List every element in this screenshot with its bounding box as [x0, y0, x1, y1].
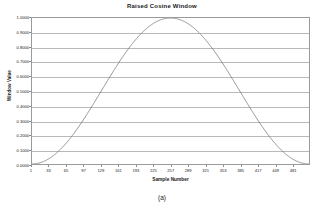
- x-tick-mark: [48, 165, 49, 167]
- y-tick-label: 0.7000: [0, 59, 29, 64]
- y-tick-label: 1.0000: [0, 15, 29, 20]
- x-tick-mark: [293, 165, 294, 167]
- x-tick-mark: [66, 165, 67, 167]
- y-tick-label: 0.1000: [0, 148, 29, 153]
- x-tick-mark: [258, 165, 259, 167]
- chart-raised-cosine-window: Raised Cosine Window Window Value 0.0000…: [0, 0, 324, 190]
- y-tick-label: 0.9000: [0, 29, 29, 34]
- x-tick-mark: [171, 165, 172, 167]
- y-tick-label: 0.8000: [0, 44, 29, 49]
- x-tick-mark: [101, 165, 102, 167]
- x-tick-mark: [83, 165, 84, 167]
- x-tick-mark: [31, 165, 32, 167]
- y-axis-tick-labels: 0.00000.10000.20000.30000.40000.50000.60…: [0, 17, 29, 165]
- x-tick-mark: [136, 165, 137, 167]
- y-tick-label: 0.0000: [0, 163, 29, 168]
- y-tick-label: 0.4000: [0, 103, 29, 108]
- x-tick-mark: [241, 165, 242, 167]
- chart-title: Raised Cosine Window: [0, 3, 324, 9]
- figure-caption: (a): [0, 194, 324, 201]
- y-tick-label: 0.2000: [0, 133, 29, 138]
- figure-container: Raised Cosine Window Window Value 0.0000…: [0, 0, 324, 214]
- x-tick-mark: [188, 165, 189, 167]
- raised-cosine-curve: [32, 18, 309, 164]
- x-tick-mark: [206, 165, 207, 167]
- x-tick-mark: [153, 165, 154, 167]
- y-tick-label: 0.3000: [0, 118, 29, 123]
- x-tick-mark: [223, 165, 224, 167]
- x-tick-mark: [276, 165, 277, 167]
- x-tick-label: 481: [282, 168, 304, 173]
- y-tick-label: 0.5000: [0, 89, 29, 94]
- x-axis-title: Sample Number: [31, 177, 310, 182]
- series-curve-svg: [32, 18, 309, 164]
- x-tick-mark: [118, 165, 119, 167]
- y-tick-label: 0.6000: [0, 74, 29, 79]
- x-axis-tick-labels: 1336597129161193225257289321353385417449…: [31, 168, 310, 176]
- plot-area: [31, 17, 310, 165]
